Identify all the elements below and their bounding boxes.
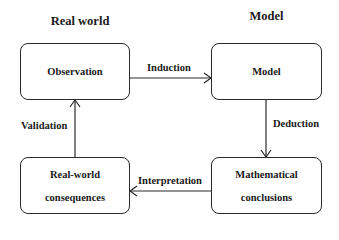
node-consequences-line1: Real-world <box>50 166 100 183</box>
node-real-world-consequences: Real-world consequences <box>20 157 130 214</box>
node-conclusions-line2: conclusions <box>241 189 292 206</box>
node-consequences-line2: consequences <box>45 189 105 206</box>
node-conclusions-line1: Mathematical <box>235 166 297 183</box>
node-observation-label: Observation <box>47 63 102 80</box>
node-model: Model <box>211 43 322 100</box>
node-mathematical-conclusions: Mathematical conclusions <box>211 157 322 214</box>
edge-label-validation: Validation <box>21 120 67 131</box>
node-observation: Observation <box>20 43 130 100</box>
edge-label-induction: Induction <box>147 62 191 73</box>
edge-label-deduction: Deduction <box>273 118 319 129</box>
edge-label-interpretation: Interpretation <box>138 175 202 186</box>
node-model-label: Model <box>252 63 281 80</box>
